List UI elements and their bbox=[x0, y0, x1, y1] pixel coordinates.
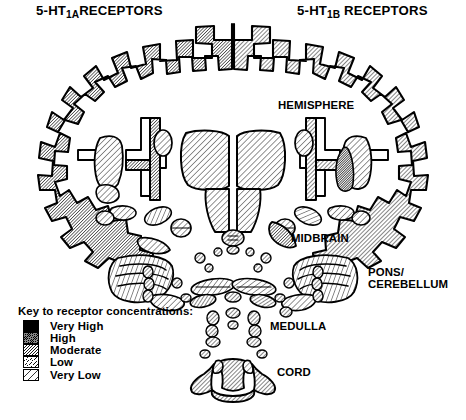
legend-label-very-high: Very High bbox=[50, 320, 103, 332]
title-5ht1a: 5-HT1ARECEPTORS bbox=[36, 4, 163, 20]
left-hypothalamus bbox=[205, 189, 229, 232]
label-pons-line1: PONS/ bbox=[368, 266, 404, 278]
right-thalamus bbox=[237, 131, 285, 190]
left-putamen bbox=[95, 136, 123, 189]
title-5ht1b-prefix: 5-HT bbox=[297, 3, 327, 18]
medulla-midline-nucleus bbox=[225, 292, 241, 302]
legend: Key to receptor concentrations: Very Hig… bbox=[18, 305, 208, 381]
label-hemisphere: HEMISPHERE bbox=[278, 99, 354, 111]
medulla-lower-nuclei bbox=[226, 308, 240, 329]
right-claustrum bbox=[328, 206, 354, 220]
right-midbrain-nucleus-a bbox=[292, 203, 324, 228]
title-5ht1a-subscript: 1A bbox=[66, 9, 79, 20]
legend-swatch-moderate bbox=[23, 344, 39, 356]
right-hypothalamus bbox=[237, 189, 261, 232]
title-5ht1b-suffix: RECEPTORS bbox=[344, 3, 428, 18]
right-caudate bbox=[295, 130, 313, 156]
raphe-nucleus bbox=[222, 230, 244, 246]
left-medulla-column bbox=[206, 311, 220, 347]
legend-item-very-high: Very High bbox=[18, 320, 208, 332]
legend-label-moderate: Moderate bbox=[50, 344, 101, 356]
legend-swatch-high bbox=[23, 332, 39, 344]
title-5ht1a-prefix: 5-HT bbox=[36, 3, 66, 18]
legend-label-high: High bbox=[50, 332, 76, 344]
label-medulla: MEDULLA bbox=[270, 320, 326, 332]
legend-item-very-low: Very Low bbox=[18, 369, 208, 381]
label-midbrain: MIDBRAIN bbox=[291, 232, 349, 244]
left-midbrain-nucleus-a bbox=[142, 203, 174, 228]
left-small-nucleus bbox=[96, 211, 114, 225]
legend-label-low: Low bbox=[50, 356, 73, 368]
legend-swatch-low bbox=[23, 356, 39, 368]
left-caudate bbox=[154, 130, 172, 156]
label-cord: CORD bbox=[277, 366, 311, 378]
title-5ht1b: 5-HT1B RECEPTORS bbox=[297, 4, 428, 20]
midline-small-nucleus bbox=[227, 246, 239, 254]
legend-swatch-very-high bbox=[23, 320, 39, 332]
label-pons-cerebellum: PONS/CEREBELLUM bbox=[368, 266, 448, 291]
right-nucleus-column bbox=[312, 266, 323, 302]
legend-label-very-low: Very Low bbox=[50, 369, 101, 381]
right-medulla-column bbox=[247, 311, 261, 347]
title-5ht1b-subscript: 1B bbox=[327, 9, 340, 20]
legend-item-moderate: Moderate bbox=[18, 344, 208, 356]
title-5ht1a-suffix: RECEPTORS bbox=[79, 3, 163, 18]
left-putamen-lower bbox=[96, 185, 119, 203]
left-thalamus bbox=[181, 131, 229, 190]
cord-adjacent-nuclei bbox=[200, 350, 267, 358]
figure-canvas: 5-HT1ARECEPTORS 5-HT1B RECEPTORS HEMISPH… bbox=[0, 0, 466, 420]
left-midbrain-nucleus-b bbox=[171, 219, 191, 237]
legend-item-low: Low bbox=[18, 357, 208, 369]
medulla-right-tract bbox=[249, 292, 277, 309]
legend-swatch-very-low bbox=[23, 369, 39, 381]
label-pons-line2: CEREBELLUM bbox=[368, 278, 448, 290]
legend-item-high: High bbox=[18, 332, 208, 344]
legend-title: Key to receptor concentrations: bbox=[18, 305, 208, 317]
right-small-nucleus bbox=[352, 211, 370, 225]
left-nucleus-column bbox=[143, 266, 154, 302]
